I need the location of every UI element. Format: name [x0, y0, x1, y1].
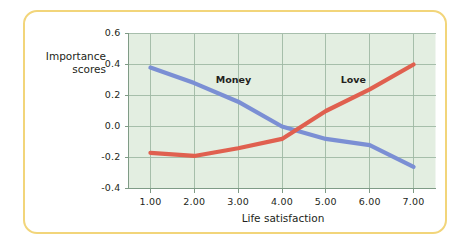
x-axis-tick-label: 2.00: [174, 196, 214, 207]
series-label-love: Love: [341, 74, 366, 85]
x-axis-tick-label: 4.00: [262, 196, 302, 207]
y-axis-tick-label: 0.0: [87, 120, 121, 131]
x-axis-tick-label: 3.00: [218, 196, 258, 207]
line-chart-plot: [0, 0, 469, 245]
x-axis-tick-label: 1.00: [130, 196, 170, 207]
x-axis-tick-label: 5.00: [306, 196, 346, 207]
y-axis-tick-label: -0.2: [87, 151, 121, 162]
series-label-money: Money: [216, 74, 251, 85]
y-axis-tick-label: 0.6: [87, 27, 121, 38]
figure-root: Importance scores Life satisfaction 0.60…: [0, 0, 469, 245]
x-axis-tick-label: 7.00: [394, 196, 434, 207]
y-axis-tick-label: -0.4: [87, 182, 121, 193]
x-axis-title: Life satisfaction: [128, 212, 438, 224]
x-axis-tick-label: 6.00: [350, 196, 390, 207]
y-axis-tick-label: 0.4: [87, 58, 121, 69]
y-axis-tick-label: 0.2: [87, 89, 121, 100]
